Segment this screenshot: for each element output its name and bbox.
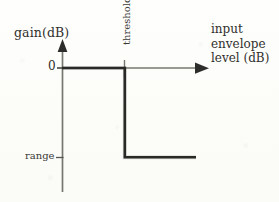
- gain-curve: [62, 68, 196, 157]
- y-axis-arrowhead: [58, 39, 68, 52]
- gain-curve-ink-bleed: [62, 68, 196, 157]
- x-axis-title-line-1: input: [211, 22, 269, 37]
- y-tick-label-zero: 0: [48, 60, 56, 72]
- x-axis-title-line-3: level (dB): [211, 51, 269, 66]
- x-axis-title-line-2: envelope: [211, 37, 269, 52]
- y-axis-title: gain(dB): [14, 27, 69, 40]
- y-tick-label-range: range: [25, 151, 55, 161]
- threshold-label: threshold: [122, 0, 132, 45]
- x-axis-arrowhead: [195, 63, 209, 74]
- gain-curve-figure: gain(dB) 0 range threshold input envelop…: [0, 0, 279, 202]
- x-axis-title: input envelope level (dB): [211, 22, 269, 66]
